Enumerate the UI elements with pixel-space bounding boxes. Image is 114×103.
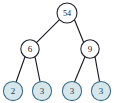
tree-node-root: 54 bbox=[57, 3, 77, 23]
tree-edge-root-to-n-r bbox=[75, 20, 84, 43]
node-label-root: 54 bbox=[63, 9, 71, 18]
tree-edge-root-to-n-l bbox=[36, 20, 59, 43]
tree-node-leaf-4: 3 bbox=[91, 81, 110, 100]
tree-edge-n-l-to-leaf-2 bbox=[35, 57, 40, 82]
tree-edge-n-l-to-leaf-1 bbox=[16, 57, 25, 82]
tree-diagram-canvas: 54692333 bbox=[0, 0, 114, 103]
tree-node-n-l: 6 bbox=[21, 40, 39, 58]
tree-node-leaf-3: 3 bbox=[62, 81, 81, 100]
tree-node-leaf-2: 3 bbox=[32, 81, 51, 100]
tree-edge-n-r-to-leaf-3 bbox=[75, 57, 86, 82]
node-label-leaf-2: 3 bbox=[40, 86, 45, 96]
node-label-n-r: 9 bbox=[88, 44, 93, 54]
node-label-n-l: 6 bbox=[28, 44, 33, 54]
tree-edge-n-r-to-leaf-4 bbox=[95, 57, 100, 82]
tree-node-leaf-1: 2 bbox=[3, 81, 22, 100]
tree-node-n-r: 9 bbox=[81, 40, 99, 58]
node-label-leaf-4: 3 bbox=[99, 86, 104, 96]
node-label-leaf-3: 3 bbox=[70, 86, 75, 96]
binary-tree-figure: 54692333 bbox=[0, 0, 114, 103]
tree-nodes-group: 54692333 bbox=[3, 3, 110, 101]
node-label-leaf-1: 2 bbox=[11, 86, 16, 96]
